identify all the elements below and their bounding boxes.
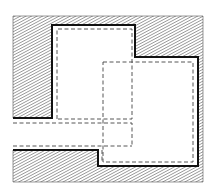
hatched-wall-mass: [13, 16, 203, 182]
lower-room-dashed-outline: [103, 62, 193, 162]
upper-room-dashed-outline: [57, 29, 132, 119]
floor-plan-diagram: [0, 0, 213, 193]
corridor-top-dashed: [13, 123, 132, 146]
